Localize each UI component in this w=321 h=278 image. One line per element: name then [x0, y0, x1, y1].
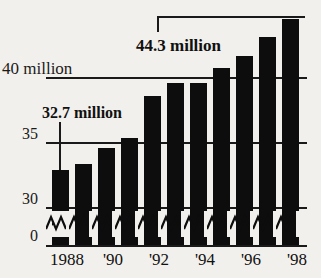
annotation-bracket [157, 16, 305, 32]
x-tick-label-98: '98 [267, 250, 321, 270]
bar-1998 [282, 19, 299, 245]
bar-chart: 40 million 35 30 0 [0, 0, 321, 278]
bar-1996 [236, 56, 253, 245]
bar-1990 [98, 148, 115, 245]
annotation-32-7-million: 32.7 million [42, 104, 122, 122]
annotation-44-3-million: 44.3 million [136, 36, 221, 56]
annotation-leader-line [59, 122, 61, 170]
bar-1997 [259, 37, 276, 245]
bar-1994 [190, 83, 207, 245]
bar-1989 [75, 164, 92, 245]
bar-1988 [52, 170, 69, 245]
bar-1991 [121, 138, 138, 245]
bar-1995 [213, 68, 230, 245]
bar-1993 [167, 83, 184, 245]
bar-1992 [144, 96, 161, 245]
